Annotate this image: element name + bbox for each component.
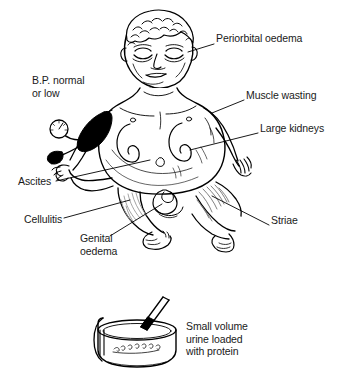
leader-genital-oedema — [110, 204, 162, 236]
label-ascites: Ascites — [18, 175, 51, 188]
illustration-canvas — [0, 0, 340, 386]
label-small-volume-urine: Small volume urine loaded with protein — [186, 320, 248, 358]
label-striae: Striae — [271, 214, 298, 227]
right-leg-with-striae — [192, 182, 241, 252]
label-muscle-wasting: Muscle wasting — [246, 89, 316, 102]
label-genital-oedema: Genital oedema — [80, 232, 117, 257]
urine-sample-pot — [94, 297, 176, 367]
head-with-curly-hair — [121, 10, 198, 89]
label-bp-normal-or-low: B.P. normal or low — [32, 74, 84, 99]
leader-cellulitis — [64, 200, 130, 218]
label-large-kidneys: Large kidneys — [260, 122, 324, 135]
nephrotic-syndrome-figure: Periorbital oedema B.P. normal or low Mu… — [0, 0, 340, 386]
blood-pressure-gauge — [50, 120, 68, 138]
label-cellulitis: Cellulitis — [24, 213, 62, 226]
leader-striae — [212, 196, 269, 225]
label-periorbital-oedema: Periorbital oedema — [216, 32, 302, 45]
leader-muscle-wasting — [212, 100, 244, 113]
